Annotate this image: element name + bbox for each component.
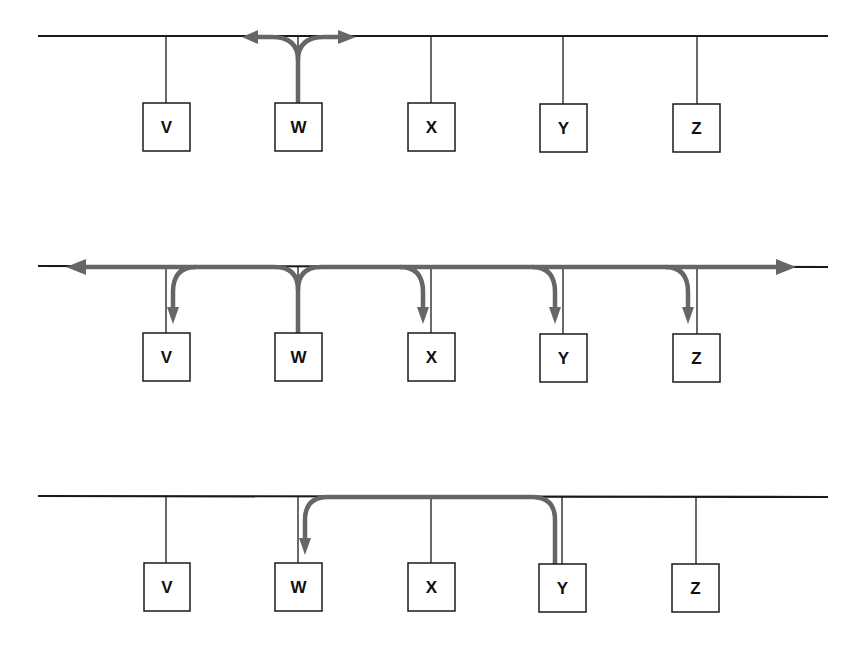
flow-path-left: [256, 37, 298, 103]
flow-path-y-to-w: [305, 497, 555, 564]
station-x: X: [408, 103, 455, 151]
station-x: X: [408, 333, 455, 381]
station-v: V: [143, 103, 190, 151]
station-v: V: [143, 333, 190, 381]
flow-arrows: [299, 497, 555, 564]
station-label: X: [426, 118, 438, 137]
station-label: X: [426, 578, 438, 597]
station-label: W: [290, 578, 307, 597]
station-label: V: [161, 348, 173, 367]
station-label: Z: [690, 579, 700, 598]
arrow-down-y-icon: [549, 307, 561, 324]
station-label: W: [290, 118, 307, 137]
station-x: X: [408, 563, 455, 611]
station-label: Y: [558, 349, 570, 368]
flow-branch-z: [665, 267, 688, 310]
station-z: Z: [673, 334, 720, 382]
panel-1: V W X Y Z: [38, 30, 828, 152]
station-label: Y: [558, 119, 570, 138]
station-label: W: [290, 348, 307, 367]
arrow-left-icon: [242, 30, 258, 44]
arrow-down-z-icon: [682, 307, 694, 324]
arrow-down-w-icon: [299, 538, 311, 555]
arrow-down-v-icon: [167, 307, 179, 324]
arrow-down-x-icon: [417, 307, 429, 324]
station-w: W: [275, 333, 322, 381]
station-label: V: [161, 118, 173, 137]
station-y: Y: [539, 564, 586, 612]
bus-network-diagram: V W X Y Z: [0, 0, 868, 649]
arrow-left-icon: [66, 259, 86, 275]
panel-2: V W X Y Z: [38, 259, 828, 382]
station-label: X: [426, 348, 438, 367]
flow-branch-y: [532, 267, 555, 310]
flow-path-left: [80, 267, 298, 333]
flow-branch-v: [173, 267, 196, 310]
station-z: Z: [672, 564, 719, 612]
station-v: V: [144, 563, 190, 611]
flow-arrows: [242, 30, 356, 103]
station-w: W: [275, 563, 322, 611]
arrow-right-icon: [776, 259, 796, 275]
station-label: V: [161, 578, 173, 597]
station-label: Z: [691, 349, 701, 368]
flow-branch-x: [400, 267, 423, 310]
station-z: Z: [673, 104, 720, 152]
station-y: Y: [540, 334, 587, 382]
arrow-right-icon: [338, 30, 356, 44]
panel-3: V W X Y Z: [38, 496, 828, 612]
station-label: Z: [691, 119, 701, 138]
flow-path-right: [298, 267, 782, 290]
station-w: W: [275, 103, 322, 151]
station-label: Y: [557, 579, 569, 598]
station-y: Y: [540, 104, 587, 152]
flow-path-right: [298, 37, 340, 60]
